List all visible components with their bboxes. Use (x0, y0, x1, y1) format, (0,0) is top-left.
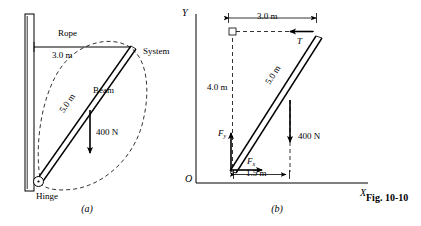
panel-a-caption: (a) (81, 203, 93, 215)
physics-figure-svg: Rope 3.0 m System Beam 5.0 m 400 N Hinge… (0, 0, 421, 226)
figure-container: Rope 3.0 m System Beam 5.0 m 400 N Hinge… (0, 0, 421, 226)
beam-label: Beam (93, 85, 114, 95)
y-axis-label: Y (182, 7, 189, 18)
system-boundary (38, 41, 147, 190)
hinge-label: Hinge (36, 191, 58, 201)
rope-length-label: 3.0 m (52, 50, 73, 60)
beam-b (230, 36, 322, 173)
force-horizontal-label: Fx (246, 156, 256, 167)
hinge (34, 177, 44, 187)
weight-label-a: 400 N (96, 127, 119, 137)
force-vertical-label: Fy (217, 128, 227, 139)
beam-length-label-b: 5.0 m (263, 64, 283, 87)
figure-caption: Fig. 10-10 (366, 192, 408, 203)
dimension-1p5m-label: 1.5 m (246, 168, 267, 178)
rope-label: Rope (58, 28, 77, 38)
dimension-3m: 3.0 m (229, 11, 317, 23)
system-label: System (143, 46, 170, 56)
tension-label: T (297, 36, 303, 46)
weight-label-b: 400 N (298, 131, 321, 141)
wall (25, 14, 34, 191)
right-angle-marker (229, 28, 236, 35)
panel-a: Rope 3.0 m System Beam 5.0 m 400 N Hinge… (25, 14, 170, 215)
beam (36, 46, 136, 184)
origin-label: O (185, 173, 192, 184)
beam-length-label-a: 5.0 m (57, 92, 77, 115)
panel-b: Y X O 3.0 m (182, 7, 368, 215)
panel-b-caption: (b) (271, 203, 283, 215)
dimension-4m-label: 4.0 m (207, 82, 228, 92)
dimension-3m-label: 3.0 m (257, 11, 278, 21)
